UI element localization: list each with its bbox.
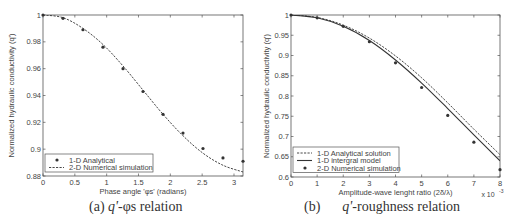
x-tick-label: 5 xyxy=(420,179,424,188)
data-point xyxy=(472,141,475,144)
chart-a-plot: 00.511.522.530.880.90.920.940.960.981Pha… xyxy=(0,0,256,200)
x-tick-label: 0 xyxy=(289,179,293,188)
x-tick-label: 8 xyxy=(498,179,502,188)
y-tick-label: 0.7 xyxy=(279,132,289,141)
data-point xyxy=(446,114,449,117)
data-point xyxy=(181,131,184,134)
caption-b: (b)q'-roughness relation xyxy=(304,199,460,215)
y-tick-label: 0.98 xyxy=(26,37,41,46)
caption-a: (a) q'-φs relation xyxy=(89,199,183,215)
data-point xyxy=(201,147,204,150)
y-tick-label: 0.9 xyxy=(31,145,41,154)
data-point xyxy=(394,61,397,64)
data-point xyxy=(498,168,501,171)
x-tick-label: 1 xyxy=(315,179,319,188)
x-tick-label: 2.5 xyxy=(197,178,207,187)
x-tick-label: 3 xyxy=(367,179,371,188)
data-point xyxy=(368,40,371,43)
x-tick-label: 1.5 xyxy=(133,178,143,187)
legend-label: 2-D Numerical simulation xyxy=(317,164,401,173)
x-tick-label: 2 xyxy=(168,178,172,187)
x-multiplier: x 10 xyxy=(481,191,494,198)
y-tick-label: 0.96 xyxy=(26,64,41,73)
y-tick-label: 0.88 xyxy=(26,172,41,181)
y-tick-label: 0.92 xyxy=(26,118,41,127)
data-point xyxy=(420,86,423,89)
y-tick-label: 0.95 xyxy=(274,31,289,40)
y-tick-label: 0.85 xyxy=(274,71,289,80)
data-point xyxy=(342,25,345,28)
y-tick-label: 0.65 xyxy=(274,152,289,161)
legend-marker-icon xyxy=(55,158,58,161)
y-axis-label: Normalized hydraulic conductivity (q') xyxy=(262,34,271,158)
y-tick-label: 0.8 xyxy=(279,92,289,101)
x-tick-label: 2 xyxy=(341,179,345,188)
data-point xyxy=(289,13,292,16)
y-tick-label: 0.75 xyxy=(274,112,289,121)
data-point xyxy=(221,156,224,159)
y-axis-label: Normalized hydraulic conductivity (q') xyxy=(7,33,16,157)
x-tick-label: 7 xyxy=(472,179,476,188)
x-tick-label: 4 xyxy=(393,179,397,188)
y-tick-label: 0.6 xyxy=(279,173,289,182)
x-axis-label: Amplitude-wave lenght ratio (2δ/λ) xyxy=(339,188,453,197)
y-tick-label: 0.94 xyxy=(26,91,41,100)
legend: 1-D Analytical solution1-D intergral mod… xyxy=(293,147,401,173)
x-tick-label: 6 xyxy=(446,179,450,188)
legend-label: 2-D Numerical simulation xyxy=(69,163,153,172)
y-tick-label: 1 xyxy=(285,11,289,20)
chart-b-plot: 0123456780.60.650.70.750.80.850.90.951Am… xyxy=(256,0,513,200)
x-multiplier-exp: -3 xyxy=(499,188,504,194)
x-tick-label: 3 xyxy=(232,178,236,187)
x-tick-label: 0 xyxy=(41,178,45,187)
plot-area xyxy=(43,15,243,176)
y-tick-label: 1 xyxy=(37,11,41,20)
x-tick-label: 0.5 xyxy=(70,178,80,187)
data-point xyxy=(241,160,244,163)
legend-marker-icon xyxy=(303,166,306,169)
data-point xyxy=(316,16,319,19)
y-tick-label: 0.9 xyxy=(279,51,289,60)
x-tick-label: 1 xyxy=(105,178,109,187)
chart-panel-b: 0123456780.60.650.70.750.80.850.90.951Am… xyxy=(256,0,513,223)
x-axis-label: Phase angle 'φs' (radians) xyxy=(100,187,187,196)
chart-panel-a: 00.511.522.530.880.90.920.940.960.981Pha… xyxy=(0,0,256,223)
legend: 1-D Analytical2-D Numerical simulation xyxy=(45,154,153,172)
